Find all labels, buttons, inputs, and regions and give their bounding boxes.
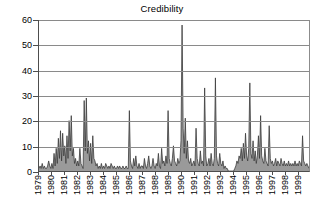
x-tick-label-1982: 1982 (73, 175, 82, 195)
gridline-20 (39, 121, 309, 122)
y-axis: 0102030405060 (0, 0, 38, 192)
chart-title: Credibility (0, 3, 324, 14)
y-tick-label-10: 10 (22, 142, 32, 152)
x-tick-label-1989: 1989 (164, 175, 173, 195)
x-tick-label-1979: 1979 (34, 175, 43, 195)
x-tick-label-1984: 1984 (99, 175, 108, 195)
x-tick-label-1987: 1987 (138, 175, 147, 195)
y-tick-label-30: 30 (22, 91, 32, 101)
x-tick-label-1986: 1986 (125, 175, 134, 195)
x-tick-label-1992: 1992 (203, 175, 212, 195)
x-tick-label-1988: 1988 (151, 175, 160, 195)
x-tick-label-1985: 1985 (112, 175, 121, 195)
x-tick-label-1980: 1980 (47, 175, 56, 195)
credibility-chart: Credibility 0102030405060 19791980198119… (0, 0, 324, 209)
x-tick-label-1981: 1981 (60, 175, 69, 195)
x-tick-label-1983: 1983 (86, 175, 95, 195)
x-tick-label-1990: 1990 (177, 175, 186, 195)
x-tick-label-1999: 1999 (294, 175, 303, 195)
y-tick-label-60: 60 (22, 15, 32, 25)
gridline-50 (39, 45, 309, 46)
gridline-40 (39, 71, 309, 72)
x-tick-label-1993: 1993 (216, 175, 225, 195)
x-tick-label-1994: 1994 (229, 175, 238, 195)
gridline-30 (39, 96, 309, 97)
gridline-10 (39, 147, 309, 148)
y-tick-label-40: 40 (22, 66, 32, 76)
x-tick-label-1996: 1996 (255, 175, 264, 195)
plot-area (38, 20, 310, 172)
y-tick-label-0: 0 (27, 167, 32, 177)
y-tick-label-50: 50 (22, 40, 32, 50)
x-tick-label-1997: 1997 (268, 175, 277, 195)
x-tick-label-1998: 1998 (281, 175, 290, 195)
y-tick-label-20: 20 (22, 116, 32, 126)
series-line (39, 25, 309, 171)
gridline-60 (39, 20, 309, 21)
x-tick-label-1991: 1991 (190, 175, 199, 195)
x-tick-label-1995: 1995 (242, 175, 251, 195)
x-axis: 1979198019811982198319841985198619871988… (38, 172, 310, 209)
